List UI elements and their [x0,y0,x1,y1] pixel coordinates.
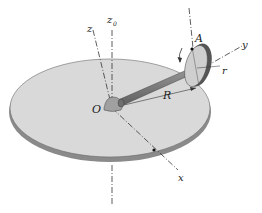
rolling-wheel-on-disc-diagram: z 0 z A y r R O x [0,0,262,213]
rotation-arrowhead [178,57,183,63]
rim-point [152,148,155,151]
hub-collar [118,99,124,107]
label-z0: z [106,14,113,25]
point-A [190,47,193,50]
label-y: y [241,39,248,50]
label-A: A [194,32,203,45]
label-O: O [92,103,101,116]
label-x: x [178,172,184,183]
label-z: z [86,23,93,34]
wheel-vertical-axis [189,8,193,48]
label-z0-sub: 0 [113,20,117,27]
label-R: R [162,89,171,102]
label-r: r [222,65,228,76]
